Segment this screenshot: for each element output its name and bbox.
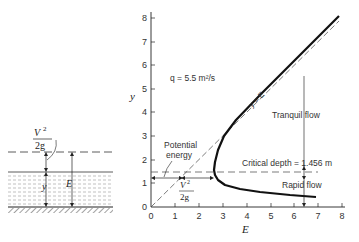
leader-curve [47,140,56,160]
svg-text:0: 0 [148,211,153,221]
x-ticks [175,203,342,207]
svg-text:8: 8 [142,13,147,23]
tranquil-flow-label: Tranquil flow [272,110,321,120]
critical-depth-label: Critical depth = 1.456 m [242,158,332,168]
left-energy-label: E [65,178,72,189]
left-velocity-head-denominator: 2g [35,140,45,151]
svg-text:3: 3 [142,131,147,141]
svg-text:2: 2 [142,155,147,165]
left-velocity-head-numerator: V [34,127,42,138]
svg-text:4: 4 [244,211,249,221]
svg-text:2: 2 [196,211,201,221]
svg-text:8: 8 [339,211,344,221]
svg-text:6: 6 [291,211,296,221]
left-velocity-head-sup: 2 [43,125,47,133]
potential-energy-label-1: Potential [164,140,197,150]
rapid-flow-label: Rapid flow [282,180,323,190]
svg-text:7: 7 [142,37,147,47]
left-depth-label: y [41,181,47,192]
specific-energy-curve [214,16,339,197]
water-body [8,176,113,204]
y-axis-label: y [129,90,135,102]
svg-text:0: 0 [142,202,147,212]
potential-energy-label-2: energy [166,150,193,160]
svg-text:3: 3 [220,211,225,221]
svg-text:4: 4 [142,107,147,117]
bed-hatching [8,208,113,213]
x-tick-labels: 0 1 2 3 4 5 6 7 8 [148,211,344,221]
channel-sketch: V 2 2g y E [8,125,113,213]
potential-energy-leader [164,161,172,177]
svg-text:5: 5 [142,84,147,94]
chart-velocity-head-sup: 2 [187,179,190,185]
svg-text:1: 1 [172,211,177,221]
svg-text:1: 1 [142,178,147,188]
discharge-label: q = 5.5 m²/s [170,73,215,83]
specific-energy-figure: V 2 2g y E 0 1 2 3 4 5 6 [0,0,359,242]
specific-energy-chart: 0 1 2 3 4 5 6 7 8 0 1 2 3 4 5 [129,12,345,235]
y-tick-labels: 0 1 2 3 4 5 6 7 8 [142,13,147,212]
y-ticks [151,18,155,183]
svg-text:5: 5 [268,211,273,221]
svg-text:7: 7 [315,211,320,221]
chart-velocity-head-denominator: 2g [180,192,190,202]
chart-velocity-head-numerator: V [180,180,187,190]
x-axis-label: E [241,223,249,235]
svg-text:6: 6 [142,60,147,70]
